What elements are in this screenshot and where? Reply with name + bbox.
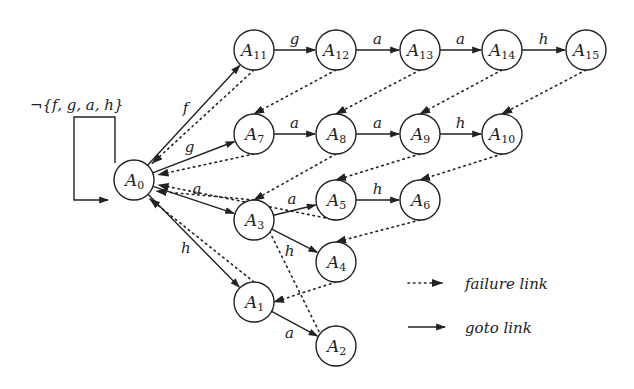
- self-loop-edge: ¬{f, g, a, h}: [30, 96, 124, 200]
- state-node-A10: A10: [482, 114, 522, 154]
- failure-link-legend-label: failure link: [464, 275, 548, 293]
- goto-edge-label: a: [193, 180, 202, 198]
- state-node-A13: A13: [400, 30, 440, 70]
- state-node-A3: A3: [234, 200, 274, 240]
- goto-edge-label: g: [185, 138, 195, 156]
- state-node-A9: A9: [400, 114, 440, 154]
- state-node-A12: A12: [316, 30, 356, 70]
- failure-edge-A6-A4: [336, 220, 420, 242]
- goto-edge-label: a: [287, 190, 296, 208]
- failure-edge-A10-A6: [420, 154, 502, 180]
- state-node-A5: A5: [316, 180, 356, 220]
- goto-edge-label: g: [290, 30, 300, 48]
- failure-edge-A14-A9: [420, 70, 502, 114]
- state-node-A0: A0: [114, 160, 154, 200]
- goto-link-legend-label: goto link: [465, 319, 532, 337]
- state-node-A8: A8: [316, 114, 356, 154]
- state-node-A14: A14: [482, 30, 522, 70]
- failure-edge-A15-A10: [502, 70, 586, 114]
- goto-edge-label: h: [285, 242, 295, 260]
- goto-edge-label: a: [373, 30, 382, 48]
- goto-edge-label: h: [539, 30, 549, 48]
- state-node-A4: A4: [316, 242, 356, 282]
- goto-edge-label: f: [182, 99, 191, 117]
- failure-edge-A9-A5: [336, 154, 420, 180]
- goto-edge-label: a: [285, 324, 294, 342]
- state-node-A1: A1: [234, 282, 274, 322]
- state-node-A7: A7: [234, 114, 274, 154]
- legend: failure link goto link: [408, 275, 548, 337]
- failure-edge-A13-A8: [336, 70, 420, 114]
- failure-edge-A11-A0: [152, 70, 254, 163]
- goto-edge-label: a: [290, 114, 299, 132]
- state-node-A2: A2: [316, 326, 356, 366]
- aho-corasick-automaton-diagram: ¬{f, g, a, h} fgaahgaahaahhha A0A11A12A1…: [0, 0, 634, 389]
- state-node-A6: A6: [400, 180, 440, 220]
- goto-edge-label: a: [456, 30, 465, 48]
- goto-edge-label: h: [456, 114, 466, 132]
- goto-edge-A0-A1: [148, 194, 239, 287]
- failure-edge-A3-A0: [156, 191, 254, 200]
- failure-edge-A4-A1: [274, 282, 336, 302]
- goto-edges: fgaahgaahaahhha: [148, 30, 565, 342]
- state-node-A15: A15: [566, 30, 606, 70]
- self-loop-label: ¬{f, g, a, h}: [30, 96, 124, 114]
- goto-edge-label: a: [373, 114, 382, 132]
- goto-edge-label: h: [373, 180, 383, 198]
- goto-edge-label: h: [181, 239, 191, 257]
- state-node-A11: A11: [234, 30, 274, 70]
- failure-edge-A12-A7: [254, 70, 336, 114]
- failure-edge-A7-A0: [158, 154, 254, 175]
- goto-edge-A3-A4: [272, 229, 318, 252]
